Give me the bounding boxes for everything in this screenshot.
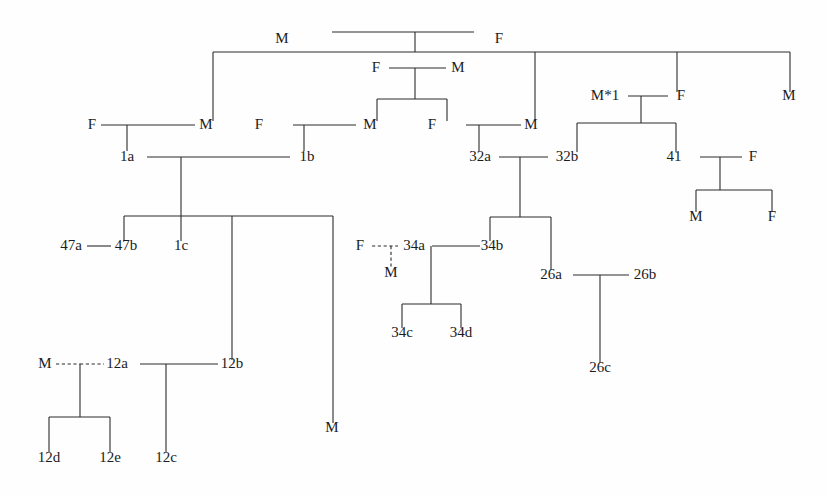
pedigree-node-n_g4_f_r[interactable]: F — [749, 148, 757, 164]
pedigree-node-n_g2_f_mid[interactable]: F — [372, 59, 380, 75]
pedigree-node-n_g2_mstar[interactable]: M*1 — [591, 87, 619, 103]
pedigree-node-n_34_m[interactable]: M — [384, 264, 397, 280]
pedigree-chart: MFFMM*1FMFMFMFM1a1b32a32b41FMF47a47b1cF3… — [0, 0, 827, 496]
pedigree-node-n_26c[interactable]: 26c — [589, 359, 611, 375]
pedigree-node-n_g3_m_a[interactable]: M — [199, 116, 212, 132]
pedigree-node-n_12e[interactable]: 12e — [99, 449, 121, 465]
pedigree-node-n_12b[interactable]: 12b — [221, 355, 244, 371]
pedigree-node-n_34_f[interactable]: F — [356, 237, 364, 253]
pedigree-node-n_g3_m_b[interactable]: M — [363, 116, 376, 132]
pedigree-node-n_g2_m_far[interactable]: M — [782, 87, 795, 103]
pedigree-node-n_12d[interactable]: 12d — [38, 449, 61, 465]
pedigree-node-n_1c[interactable]: 1c — [174, 237, 189, 253]
pedigree-node-n_g1_f[interactable]: F — [495, 30, 503, 46]
pedigree-node-n_47a[interactable]: 47a — [60, 237, 82, 253]
pedigree-node-n_26a[interactable]: 26a — [540, 266, 562, 282]
pedigree-node-n_g2_f_r[interactable]: F — [677, 87, 685, 103]
pedigree-node-n_26b[interactable]: 26b — [634, 266, 657, 282]
pedigree-node-n_1a[interactable]: 1a — [120, 148, 135, 164]
pedigree-node-n_32a[interactable]: 32a — [469, 148, 491, 164]
pedigree-node-n_34d[interactable]: 34d — [450, 324, 473, 340]
pedigree-node-n_g5_f_r[interactable]: F — [768, 208, 776, 224]
pedigree-node-n_g3_m_c[interactable]: M — [524, 116, 537, 132]
pedigree-node-n_g3_f_c[interactable]: F — [428, 116, 436, 132]
pedigree-node-n_12a[interactable]: 12a — [106, 355, 128, 371]
pedigree-node-n_34a[interactable]: 34a — [403, 237, 425, 253]
pedigree-canvas: MFFMM*1FMFMFMFM1a1b32a32b41FMF47a47b1cF3… — [0, 0, 827, 496]
pedigree-node-n_g3_f_a[interactable]: F — [88, 116, 96, 132]
pedigree-node-n_32b[interactable]: 32b — [556, 148, 579, 164]
pedigree-node-n_g2_m_mid[interactable]: M — [451, 59, 464, 75]
pedigree-node-n_41[interactable]: 41 — [667, 148, 682, 164]
pedigree-node-n_g7_m_far[interactable]: M — [325, 419, 338, 435]
pedigree-node-n_34c[interactable]: 34c — [391, 324, 413, 340]
pedigree-node-n_g1_m[interactable]: M — [275, 30, 288, 46]
pedigree-node-n_12_m[interactable]: M — [38, 355, 51, 371]
pedigree-node-n_g3_f_b[interactable]: F — [255, 116, 263, 132]
pedigree-node-n_34b[interactable]: 34b — [481, 237, 504, 253]
pedigree-node-n_g5_m_r[interactable]: M — [689, 208, 702, 224]
pedigree-node-n_1b[interactable]: 1b — [300, 148, 315, 164]
pedigree-node-n_12c[interactable]: 12c — [155, 449, 177, 465]
pedigree-node-n_47b[interactable]: 47b — [115, 237, 138, 253]
